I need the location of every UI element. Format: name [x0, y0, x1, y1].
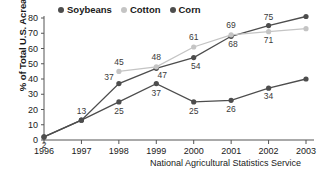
svg-text:2003: 2003: [296, 146, 316, 156]
data-label: 37: [104, 72, 114, 82]
svg-text:30: 30: [28, 89, 38, 99]
svg-text:2000: 2000: [184, 146, 204, 156]
svg-text:10: 10: [28, 120, 38, 130]
data-label: 26: [226, 104, 236, 114]
source-caption: National Agricultural Statistics Service: [150, 158, 301, 168]
data-label: 45: [114, 57, 124, 67]
data-label: 48: [152, 52, 162, 62]
chart-canvas: 01020304050607080 1996199719981999200020…: [0, 0, 317, 176]
data-label: 25: [114, 106, 124, 116]
svg-text:80: 80: [28, 13, 38, 23]
svg-text:1999: 1999: [146, 146, 166, 156]
data-label: 71: [264, 35, 274, 45]
svg-text:1997: 1997: [71, 146, 91, 156]
data-label: 13: [77, 106, 87, 116]
svg-text:1998: 1998: [109, 146, 129, 156]
data-label: 68: [228, 39, 238, 49]
svg-text:20: 20: [28, 105, 38, 115]
data-label: 61: [189, 32, 199, 42]
data-label: 54: [191, 61, 201, 71]
svg-text:50: 50: [28, 59, 38, 69]
x-axis-ticks: 19961997199819992000200120022003: [34, 140, 316, 156]
data-label: 34: [264, 91, 274, 101]
svg-text:0: 0: [33, 135, 38, 145]
data-label: 47: [158, 70, 168, 80]
svg-text:40: 40: [28, 74, 38, 84]
line-chart: % of Total U.S. Acreage Soybeans Cotton …: [0, 0, 317, 176]
svg-text:2002: 2002: [259, 146, 279, 156]
y-axis-ticks: 01020304050607080: [28, 13, 44, 145]
data-label: 2: [42, 140, 47, 150]
svg-text:2001: 2001: [221, 146, 241, 156]
data-label: 37: [152, 88, 162, 98]
series-layer: [41, 14, 308, 140]
svg-text:60: 60: [28, 44, 38, 54]
data-label: 25: [189, 106, 199, 116]
data-label: 69: [226, 20, 236, 30]
data-label: 75: [264, 12, 274, 22]
svg-text:70: 70: [28, 28, 38, 38]
